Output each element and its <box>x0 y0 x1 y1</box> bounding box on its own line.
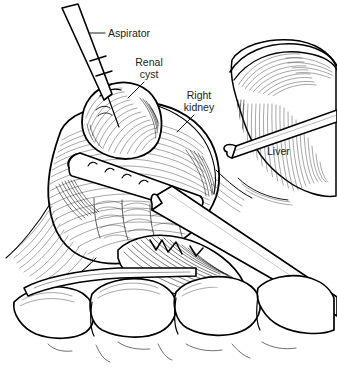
label-right-kidney-line1: Right <box>187 89 212 101</box>
illustration-canvas: Aspirator Renal cyst Right kidney Liver <box>0 0 337 372</box>
label-liver: Liver <box>267 145 290 157</box>
renal-cyst-structure <box>82 82 162 160</box>
label-renal-cyst-line1: Renal <box>135 56 162 68</box>
fat-lobule-3 <box>174 277 260 336</box>
label-right-kidney-line2: kidney <box>184 101 215 113</box>
label-renal-cyst-line2: cyst <box>140 68 159 80</box>
medical-illustration: Aspirator Renal cyst Right kidney Liver <box>0 0 337 372</box>
label-aspirator: Aspirator <box>108 27 151 39</box>
fat-lobule-2 <box>90 279 176 337</box>
